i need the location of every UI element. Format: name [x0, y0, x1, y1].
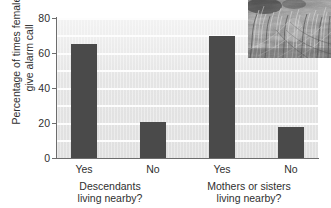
x-tick-label-mothers-no: No [264, 163, 318, 175]
group-label-descendants-line-1: Descendants [45, 180, 175, 192]
y-tick-label-60: 60 [26, 48, 50, 58]
group-label-mothers-line-1: Mothers or sisters [184, 180, 314, 192]
group-label-mothers-line-2: living nearby? [184, 192, 314, 204]
bar-mothers-yes [209, 36, 235, 159]
y-tick-label-0: 0 [26, 153, 50, 163]
chart-figure: Percentage of times females give alarm c… [0, 0, 331, 208]
x-tick-label-mothers-yes: Yes [195, 163, 249, 175]
group-label-descendants-line-2: living nearby? [45, 192, 175, 204]
y-tick-label-40: 40 [26, 83, 50, 93]
group-label-mothers: Mothers or sisters living nearby? [184, 180, 314, 204]
y-tick-label-20: 20 [26, 118, 50, 128]
group-label-descendants: Descendants living nearby? [45, 180, 175, 204]
grass-habitat-photograph [248, 0, 331, 58]
bar-mothers-no [278, 127, 304, 159]
x-tick-label-descendants-yes: Yes [57, 163, 111, 175]
y-axis-title-line-1: Percentage of times females [10, 0, 23, 138]
bar-descendants-yes [71, 44, 97, 158]
x-axis-line [56, 158, 319, 159]
x-tick-label-descendants-no: No [126, 163, 180, 175]
bar-descendants-no [140, 122, 166, 158]
y-tick-label-80: 80 [26, 13, 50, 23]
